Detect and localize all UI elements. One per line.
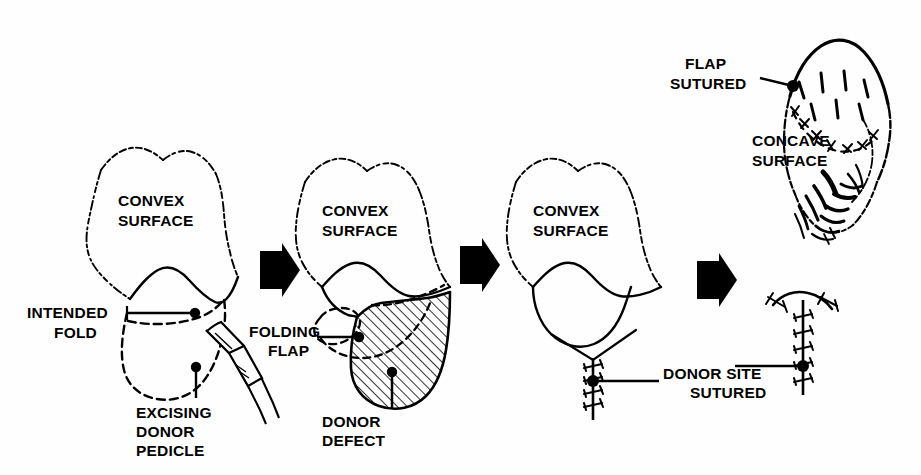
label-flap-sutured: FLAP SUTURED [670,55,746,92]
flap-sutured-line-1: FLAP [685,55,726,72]
excising-line-3: PEDICLE [136,442,205,459]
label-intended-fold: INTENDED FOLD [27,304,108,341]
donor-site-line-1: DONOR SITE [663,365,761,382]
label-donor-defect: DONOR DEFECT [322,413,386,449]
donor-defect-line-1: DONOR [322,413,381,430]
convex-surface-outline-1 [87,170,130,299]
excising-line-1: EXCISING [136,404,212,421]
arrow-2 [460,238,500,292]
convex-surface-outline-2c [367,163,419,190]
medical-illustration-figure: CONVEX SURFACE INTENDED FOLD EXCISING DO… [0,0,921,475]
arrow-1 [260,243,300,297]
donor-defect-hatched [351,292,450,409]
concave-surface-line-2: SURFACE [752,152,827,169]
concave-surface-line-1: CONCAVE [752,132,830,149]
label-donor-site-sutured: DONOR SITE SUTURED [663,365,766,401]
convex-surface-outline-3b [516,159,578,182]
t-shaped-suture-line [766,292,838,395]
label-convex-surface-3: CONVEX SURFACE [533,202,608,239]
convex-surface-2-line-2: SURFACE [322,222,397,239]
excising-line-2: DONOR [136,423,195,440]
intended-fold-leader-dot [190,308,200,318]
flap-outline-right-4 [877,104,890,182]
convex-surface-outline-2a [296,182,322,287]
convex-surface-3-line-1: CONVEX [533,202,600,219]
convex-surface-outline-1d [216,174,238,277]
intended-fold-dashed [128,299,224,324]
label-convex-surface-2: CONVEX SURFACE [322,202,397,239]
label-convex-surface-1: CONVEX SURFACE [118,192,193,229]
panel-4-group: FLAP SUTURED CONCAVE SURFACE [670,40,890,395]
donor-defect-line-2: DEFECT [322,432,386,449]
folded-flap-left-2 [322,287,357,317]
flap-inner-right-fold-4 [852,118,873,202]
arrow-3 [697,253,737,307]
convex-surface-outline-1b [101,148,163,170]
flap-sutured-leader-line-4 [760,78,793,86]
convex-surface-outline-2b [305,159,367,182]
panel-1-group: CONVEX SURFACE INTENDED FOLD EXCISING DO… [27,148,279,459]
convex-surface-2-line-1: CONVEX [322,202,389,219]
label-excising-donor-pedicle: EXCISING DONOR PEDICLE [136,404,212,459]
convex-surface-1-line-1: CONVEX [118,192,185,209]
intended-fold-line-1: INTENDED [27,304,108,321]
illustration-canvas: CONVEX SURFACE INTENDED FOLD EXCISING DO… [0,0,921,475]
convex-surface-1-line-2: SURFACE [118,212,193,229]
flap-ridge-1 [130,268,238,303]
folding-flap-leader-dot [354,332,364,342]
radiating-creases-4 [799,71,868,120]
folding-flap-line-1: FOLDING [249,323,320,340]
shaded-folds-4 [795,165,863,244]
convex-surface-outline-3a [507,182,533,287]
convex-surface-outline-1c [163,151,216,174]
panel-2-group: CONVEX SURFACE FOLDING FLAP DONOR DEFECT [249,159,450,449]
closed-defect-outline-3 [533,263,661,297]
convex-surface-outline-3c [578,163,630,190]
flap-outline-4 [790,40,888,104]
convex-surface-3-line-2: SURFACE [533,222,608,239]
donor-site-line-2: SUTURED [690,384,766,401]
convex-surface-outline-3d [630,190,661,287]
flap-sutured-line-2: SUTURED [670,75,746,92]
label-concave-surface: CONCAVE SURFACE [752,132,830,169]
intended-fold-line-2: FOLD [54,324,97,341]
convex-surface-outline-2d [419,190,450,287]
folding-flap-line-2: FLAP [268,342,309,359]
label-folding-flap: FOLDING FLAP [249,323,320,359]
vertical-suture-line-3 [584,358,603,420]
